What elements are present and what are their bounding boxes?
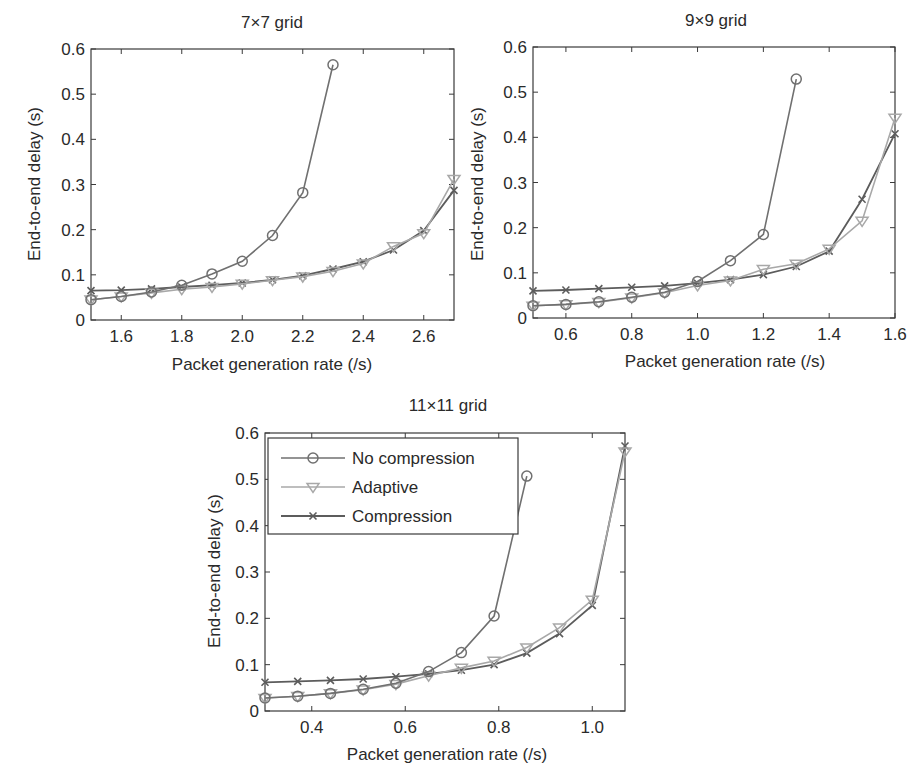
y-tick-label: 0.2: [503, 219, 527, 238]
x-marker: [859, 196, 866, 203]
y-tick-label: 0.6: [235, 424, 259, 443]
x-tick-label: 1.6: [883, 325, 907, 344]
subplot-title: 7×7 grid: [241, 13, 303, 32]
y-tick-label: 0.2: [235, 609, 259, 628]
x-tick-label: 1.6: [109, 327, 133, 346]
y-tick-label: 0.3: [503, 174, 527, 193]
subplot-7x7-grid: 7×7 grid Packet generation rate (/s) End…: [25, 13, 460, 374]
y-axis-label: End-to-end delay (s): [205, 494, 224, 648]
x-tick-label: 0.8: [487, 718, 511, 737]
x-tick-label: 2.0: [230, 327, 254, 346]
series-line: [533, 134, 895, 291]
legend-label: Compression: [352, 507, 452, 526]
x-axis-label: Packet generation rate (/s): [625, 352, 825, 371]
subplot-title: 11×11 grid: [409, 396, 487, 415]
y-tick-label: 0.1: [61, 266, 85, 285]
y-tick-label: 0.1: [235, 656, 259, 675]
subplot-title: 9×9 grid: [685, 11, 747, 30]
y-tick-label: 0.4: [503, 128, 527, 147]
legend-label: No compression: [352, 449, 475, 468]
y-tick-label: 0.5: [61, 85, 85, 104]
y-tick-label: 0.6: [61, 40, 85, 59]
y-tick-label: 0.4: [235, 517, 259, 536]
y-tick-label: 0.6: [503, 38, 527, 57]
y-axis-label: End-to-end delay (s): [468, 107, 487, 261]
subplot-9x9-grid: 9×9 grid Packet generation rate (/s) End…: [468, 11, 907, 371]
y-tick-label: 0.4: [61, 130, 85, 149]
x-tick-label: 2.6: [412, 327, 436, 346]
x-tick-label: 1.4: [817, 325, 841, 344]
series-compression: [530, 130, 899, 294]
series-line: [533, 118, 895, 306]
axes-frame: [533, 47, 895, 318]
y-tick-label: 0: [518, 309, 527, 328]
x-axis-label: Packet generation rate (/s): [347, 745, 547, 764]
circle-marker: [522, 471, 532, 481]
y-tick-label: 0: [250, 702, 259, 721]
x-tick-label: 1.2: [752, 325, 776, 344]
y-tick-label: 0.3: [235, 563, 259, 582]
legend: No compressionAdaptiveCompression: [268, 438, 518, 534]
x-tick-label: 1.0: [580, 718, 604, 737]
y-tick-label: 0.5: [235, 470, 259, 489]
legend-label: Adaptive: [352, 478, 418, 497]
y-tick-label: 0.5: [503, 83, 527, 102]
x-axis-label: Packet generation rate (/s): [172, 355, 372, 374]
x-tick-label: 1.8: [170, 327, 194, 346]
y-tick-label: 0: [76, 311, 85, 330]
x-tick-label: 1.0: [686, 325, 710, 344]
series-no-compression: [86, 60, 338, 305]
y-tick-label: 0.1: [503, 264, 527, 283]
series-line: [91, 179, 454, 300]
x-tick-label: 0.4: [300, 718, 324, 737]
y-tick-label: 0.2: [61, 221, 85, 240]
y-tick-label: 0.3: [61, 176, 85, 195]
x-tick-label: 2.2: [291, 327, 315, 346]
figure: 7×7 grid Packet generation rate (/s) End…: [0, 0, 921, 784]
series-line: [91, 65, 333, 300]
y-axis-label: End-to-end delay (s): [25, 107, 44, 261]
x-tick-label: 0.6: [554, 325, 578, 344]
x-tick-label: 0.6: [393, 718, 417, 737]
x-tick-label: 0.8: [620, 325, 644, 344]
x-tick-label: 2.4: [351, 327, 375, 346]
